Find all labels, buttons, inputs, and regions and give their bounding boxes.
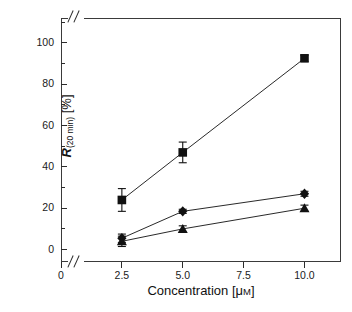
y-tick-label: 20 <box>8 202 54 212</box>
x-tick-label: 7.5 <box>222 270 266 281</box>
x-tick-major <box>182 262 183 268</box>
y-tick-major <box>61 208 67 209</box>
caption-strip: — — — — — — — — — — — — — — — — — — — <box>0 303 352 312</box>
y-tick-label: 0 <box>8 244 54 254</box>
y-tick-label: 80 <box>8 78 54 88</box>
x-axis-title: Concentration [μM] <box>61 283 341 298</box>
x-tick-major <box>304 262 305 268</box>
x-axis-break-bottom <box>70 255 88 269</box>
y-tick-label: 40 <box>8 161 54 171</box>
x-tick-label: 10.0 <box>282 270 326 281</box>
x-tick-major <box>121 262 122 268</box>
x-tick-major <box>243 262 244 268</box>
y-tick-label: 100 <box>8 37 54 47</box>
y-axis-symbol: R <box>59 148 74 157</box>
x-tick-label: 5.0 <box>161 270 205 281</box>
x-axis-title-close: ] <box>251 283 255 298</box>
y-axis-unit: [%] <box>59 94 74 116</box>
x-tick-major <box>61 262 62 268</box>
y-tick-minor <box>61 228 65 229</box>
y-tick-major <box>61 42 67 43</box>
y-tick-major <box>61 249 67 250</box>
figure-container: 02040608010002.55.07.510.0 R(20 min) [%]… <box>0 0 352 312</box>
x-axis-title-mu: μ <box>236 283 244 298</box>
y-axis-subscript: (20 min) <box>65 117 75 148</box>
x-tick-label: 2.5 <box>100 270 144 281</box>
x-axis-title-main: Concentration [ <box>147 283 235 298</box>
caption-cropped-text: — — — — — — — — — — — — — — — — — — — <box>8 303 348 306</box>
x-axis-title-molar: M <box>243 286 251 297</box>
y-tick-minor <box>61 22 65 23</box>
plot-frame <box>61 18 341 262</box>
y-tick-label: 60 <box>8 120 54 130</box>
y-axis-title: R(20 min) [%] <box>59 51 75 201</box>
x-axis-break-top <box>70 10 88 24</box>
x-tick-label: 0 <box>39 270 83 281</box>
